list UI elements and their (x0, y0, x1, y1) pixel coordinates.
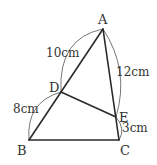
side-AC (103, 29, 119, 140)
segment-DE (61, 92, 116, 117)
length-AE: 12cm (116, 65, 150, 79)
length-AD: 10cm (46, 46, 80, 60)
label-B: B (17, 143, 27, 158)
label-C: C (120, 143, 130, 158)
length-EC: 3cm (122, 121, 148, 135)
label-D: D (49, 80, 59, 95)
triangle-diagram: A B C D E 10cm 12cm 8cm 3cm (0, 0, 157, 165)
label-A: A (97, 12, 108, 27)
length-DB: 8cm (13, 102, 39, 116)
